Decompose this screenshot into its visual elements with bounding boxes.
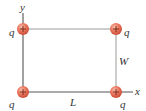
charge-label-top-right: q — [124, 27, 130, 38]
x-axis-label: x — [135, 86, 140, 97]
charge-label-bottom-left: q — [9, 99, 15, 110]
charge-top-left — [17, 23, 29, 35]
width-label: W — [119, 56, 128, 67]
charge-top-right — [110, 23, 122, 35]
charge-label-top-left: q — [9, 27, 15, 38]
charge-bottom-left — [17, 86, 29, 98]
charge-label-bottom-right: q — [120, 99, 126, 110]
y-axis-label: y — [20, 2, 25, 13]
charge-bottom-right — [110, 86, 122, 98]
length-label: L — [70, 97, 76, 108]
